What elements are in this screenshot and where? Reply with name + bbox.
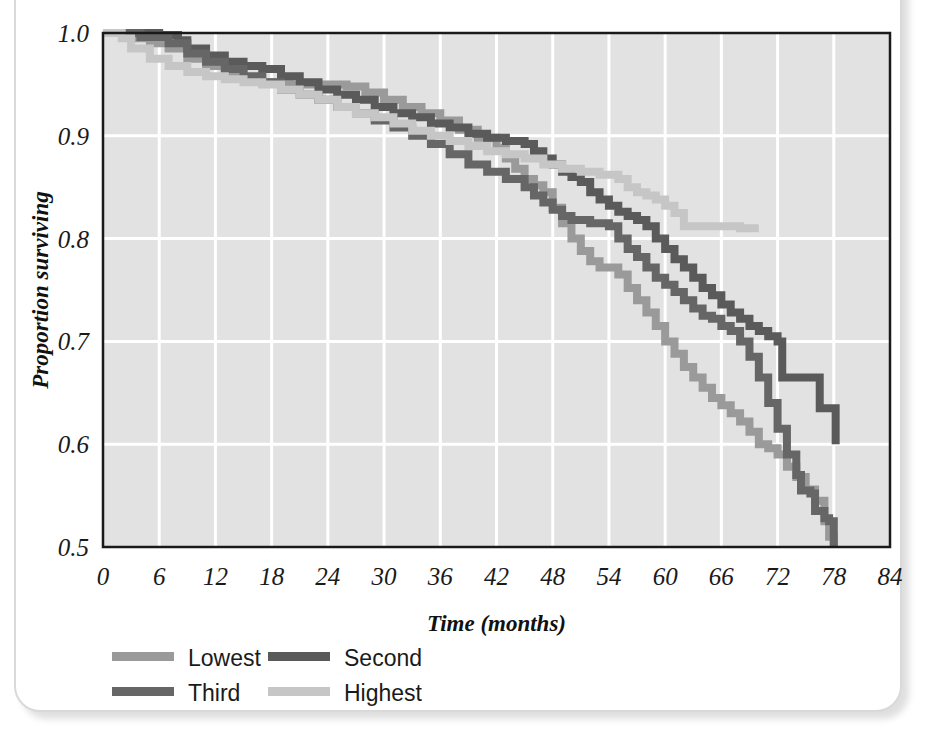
x-tick-label: 54 [596, 563, 621, 590]
x-tick-label: 48 [540, 563, 566, 590]
figure-page: 0612182430364248546066727884 0.50.60.70.… [0, 0, 933, 748]
x-tick-label: 24 [315, 563, 340, 590]
legend-label-highest: Highest [344, 680, 423, 706]
y-tick-label: 1.0 [58, 20, 90, 47]
y-axis-title: Proportion surviving [28, 191, 53, 389]
x-tick-label: 84 [878, 563, 903, 590]
y-tick-labels: 0.50.60.70.80.91.0 [58, 20, 91, 561]
x-tick-label: 78 [821, 563, 847, 590]
legend: LowestSecondThirdHighest [112, 645, 423, 706]
x-tick-label: 66 [709, 563, 735, 590]
legend-label-third: Third [188, 680, 240, 706]
legend-swatch-third [112, 687, 174, 696]
survival-chart: 0612182430364248546066727884 0.50.60.70.… [0, 0, 933, 748]
chart-canvas: 0612182430364248546066727884 0.50.60.70.… [0, 0, 933, 748]
x-tick-labels: 0612182430364248546066727884 [97, 563, 903, 590]
x-tick-label: 6 [153, 563, 166, 590]
legend-swatch-highest [268, 687, 330, 696]
x-tick-label: 18 [259, 563, 285, 590]
x-tick-label: 30 [371, 563, 398, 590]
y-tick-label: 0.7 [58, 328, 91, 355]
x-axis-title: Time (months) [427, 611, 566, 636]
y-tick-label: 0.9 [58, 123, 90, 150]
legend-label-second: Second [344, 645, 422, 671]
legend-label-lowest: Lowest [188, 645, 261, 671]
y-tick-label: 0.8 [58, 226, 90, 253]
y-tick-label: 0.6 [58, 431, 90, 458]
x-tick-label: 12 [203, 563, 228, 590]
x-tick-label: 36 [427, 563, 454, 590]
legend-swatch-lowest [112, 652, 174, 661]
legend-swatch-second [268, 652, 330, 661]
x-tick-label: 60 [653, 563, 679, 590]
y-tick-label: 0.5 [58, 534, 89, 561]
x-tick-label: 0 [97, 563, 110, 590]
x-tick-label: 42 [484, 563, 509, 590]
x-tick-label: 72 [765, 563, 790, 590]
